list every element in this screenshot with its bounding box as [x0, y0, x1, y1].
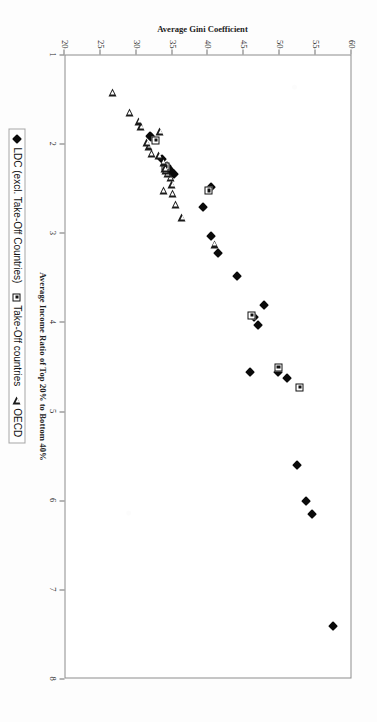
- x-axis-tick-label: 7: [47, 587, 57, 591]
- x-axis-title: Average Income Ratio of Top 20% to Botto…: [37, 54, 47, 678]
- open-triangle-marker: [171, 200, 179, 208]
- square-dot-marker: [274, 363, 282, 371]
- open-triangle-icon: [12, 395, 22, 405]
- legend-item-label: Take-Off countries: [11, 305, 22, 386]
- y-axis-title: Average Gini Coefficient: [82, 23, 322, 33]
- x-axis-tick: [59, 678, 64, 679]
- x-axis-tick-label: 8: [47, 676, 57, 680]
- open-triangle-marker: [177, 213, 185, 221]
- open-triangle-marker: [125, 108, 133, 116]
- x-axis-tick: [59, 411, 64, 412]
- x-axis-tick-label: 3: [47, 230, 57, 234]
- y-axis-tick: [278, 49, 279, 54]
- x-axis-tick-label: 5: [47, 408, 57, 412]
- plot-data-area: [65, 55, 350, 677]
- filled-diamond-marker: [212, 248, 222, 258]
- filled-diamond-marker: [300, 496, 310, 506]
- filled-diamond-marker: [232, 271, 242, 281]
- y-axis-tick: [242, 49, 243, 54]
- filled-diamond-marker: [306, 509, 316, 519]
- x-axis-tick: [59, 589, 64, 590]
- legend-item-label: OECD: [11, 408, 22, 437]
- open-triangle-marker: [168, 189, 176, 197]
- filled-diamond-marker: [244, 366, 254, 376]
- x-axis-tick: [59, 232, 64, 233]
- x-axis-tick-label: 2: [47, 141, 57, 145]
- square-dot-icon: [12, 292, 22, 302]
- filled-diamond-marker: [197, 201, 207, 211]
- chart-legend: LDC (excl. Take-Off Countries)Take-Off c…: [8, 128, 25, 443]
- y-axis-tick: [207, 49, 208, 54]
- open-triangle-marker: [210, 240, 218, 248]
- open-triangle-marker: [155, 127, 163, 135]
- plot-frame: [64, 54, 351, 678]
- x-axis-tick-label: 4: [47, 319, 57, 323]
- y-axis-tick: [314, 49, 315, 54]
- open-triangle-marker: [154, 151, 162, 159]
- x-axis-tick-label: 1: [47, 52, 57, 56]
- filled-diamond-marker: [292, 460, 302, 470]
- plot-wrapper: 12345678 202530354045505560 Average Inco…: [0, 0, 377, 722]
- filled-diamond-icon: [12, 134, 22, 144]
- chart-page: 12345678 202530354045505560 Average Inco…: [0, 0, 377, 722]
- open-triangle-marker: [134, 117, 142, 125]
- square-dot-marker: [204, 186, 212, 194]
- open-triangle-marker: [142, 138, 150, 146]
- x-axis-tick: [59, 321, 64, 322]
- filled-diamond-marker: [258, 300, 268, 310]
- square-dot-marker: [295, 383, 303, 391]
- legend-item[interactable]: LDC (excl. Take-Off Countries): [11, 134, 22, 283]
- legend-item-label: LDC (excl. Take-Off Countries): [11, 147, 22, 283]
- y-axis-tick: [99, 49, 100, 54]
- x-axis-tick: [59, 143, 64, 144]
- y-axis-tick: [350, 49, 351, 54]
- y-axis-tick: [135, 49, 136, 54]
- y-axis-tick: [171, 49, 172, 54]
- square-dot-marker: [247, 311, 255, 319]
- open-triangle-marker: [108, 88, 116, 96]
- scatter-figure: 12345678 202530354045505560 Average Inco…: [0, 0, 377, 722]
- y-axis-tick: [63, 49, 64, 54]
- filled-diamond-marker: [328, 620, 338, 630]
- filled-diamond-marker: [282, 373, 292, 383]
- x-axis-tick-label: 6: [47, 498, 57, 502]
- open-triangle-marker: [159, 186, 167, 194]
- y-axis-tick-label: 60: [346, 26, 356, 48]
- legend-item[interactable]: Take-Off countries: [11, 292, 22, 386]
- legend-item[interactable]: OECD: [11, 395, 22, 437]
- y-axis-tick-label: 20: [59, 26, 69, 48]
- x-axis-tick: [59, 500, 64, 501]
